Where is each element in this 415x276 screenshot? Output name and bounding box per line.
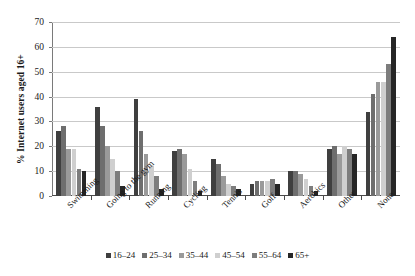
x-axis-tick-mark (91, 196, 92, 200)
bar (376, 82, 381, 196)
bar (327, 149, 332, 196)
legend-label: 55–64 (259, 250, 282, 260)
bar (386, 64, 391, 196)
legend-item: 45–54 (215, 250, 245, 260)
bar (66, 149, 71, 196)
legend-swatch-icon (288, 253, 293, 258)
bar (110, 159, 115, 196)
y-axis-tick-label: 40 (14, 92, 44, 102)
legend-item: 25–34 (142, 250, 172, 260)
bar (298, 174, 303, 196)
bar (337, 154, 342, 196)
bar (391, 37, 396, 196)
bar (255, 181, 260, 196)
bar (182, 154, 187, 196)
legend-item: 65+ (288, 250, 309, 260)
bar (381, 82, 386, 196)
y-axis-tick-label: 0 (14, 191, 44, 201)
bar-group (168, 22, 207, 196)
bar (288, 171, 293, 196)
bar (216, 164, 221, 196)
legend-label: 16–24 (113, 250, 136, 260)
bar-group (323, 22, 362, 196)
y-axis-tick-label: 50 (14, 67, 44, 77)
bar (275, 184, 280, 196)
x-axis-tick-mark (207, 196, 208, 200)
bar (56, 131, 61, 196)
legend-label: 65+ (295, 250, 309, 260)
bar (293, 171, 298, 196)
legend-label: 25–34 (149, 250, 172, 260)
x-axis-tick-mark (361, 196, 362, 200)
bar-group (52, 22, 91, 196)
legend-item: 16–24 (106, 250, 136, 260)
bar-group (207, 22, 246, 196)
bar-group (245, 22, 284, 196)
bar (172, 151, 177, 196)
legend-label: 35–44 (186, 250, 209, 260)
bar (366, 112, 371, 197)
bar (221, 176, 226, 196)
legend-swatch-icon (252, 253, 257, 258)
bar (177, 149, 182, 196)
legend-item: 35–44 (179, 250, 209, 260)
plot-area: 010203040506070 (52, 22, 400, 196)
bar (371, 94, 376, 196)
bar (260, 181, 265, 196)
x-axis-tick-mark (168, 196, 169, 200)
y-axis-tick-label: 60 (14, 42, 44, 52)
legend-swatch-icon (142, 253, 147, 258)
y-axis-tick-mark (49, 196, 52, 197)
bar (61, 126, 66, 196)
x-axis-tick-mark (129, 196, 130, 200)
bar-group (284, 22, 323, 196)
chart-legend: 16–2425–3435–4445–5455–6465+ (0, 250, 415, 260)
bar (250, 184, 255, 196)
bar-chart-figure: % Internet users aged 16+ 01020304050607… (0, 0, 415, 276)
bar (72, 149, 77, 196)
y-axis-tick-label: 30 (14, 116, 44, 126)
x-axis-tick-mark (323, 196, 324, 200)
legend-swatch-icon (106, 253, 111, 258)
y-axis-tick-label: 70 (14, 17, 44, 27)
bar-group (91, 22, 130, 196)
x-axis-tick-mark (284, 196, 285, 200)
bar (342, 146, 347, 196)
bar-group (361, 22, 400, 196)
legend-swatch-icon (215, 253, 220, 258)
bar (105, 146, 110, 196)
bar (332, 146, 337, 196)
bar (100, 126, 105, 196)
y-axis-tick-label: 10 (14, 166, 44, 176)
legend-item: 55–64 (252, 250, 282, 260)
legend-label: 45–54 (222, 250, 245, 260)
y-axis-tick-label: 20 (14, 141, 44, 151)
bar (211, 159, 216, 196)
bar (352, 154, 357, 196)
x-axis-tick-mark (245, 196, 246, 200)
legend-swatch-icon (179, 253, 184, 258)
